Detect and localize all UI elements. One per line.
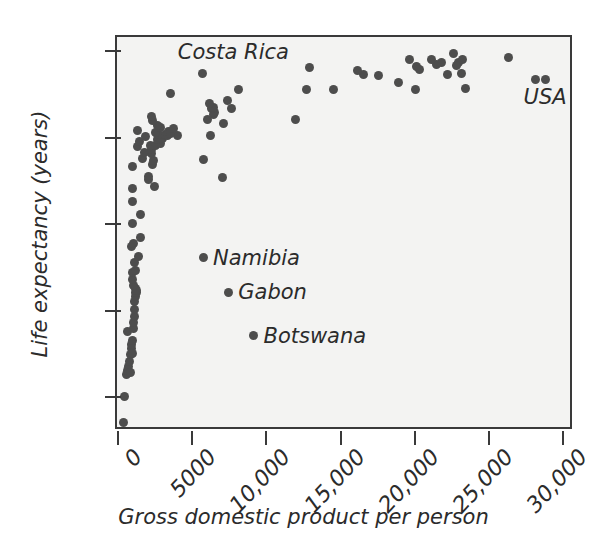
data-point bbox=[128, 219, 137, 228]
data-point bbox=[166, 89, 175, 98]
annotation-marker bbox=[224, 288, 233, 297]
data-point bbox=[227, 104, 236, 113]
data-point bbox=[136, 210, 145, 219]
x-axis-tick bbox=[265, 431, 267, 445]
data-point bbox=[449, 49, 458, 58]
y-axis-tick bbox=[105, 50, 121, 52]
data-point bbox=[126, 368, 135, 377]
plot-area: Costa RicaNamibiaGabonBotswanaUSA bbox=[115, 35, 572, 429]
data-point bbox=[234, 85, 243, 94]
data-point bbox=[437, 58, 446, 67]
data-point bbox=[443, 70, 452, 79]
data-point bbox=[541, 75, 550, 84]
data-point bbox=[136, 233, 145, 242]
data-point bbox=[415, 65, 424, 74]
annotation-marker bbox=[199, 253, 208, 262]
y-axis-title: Life expectancy (years) bbox=[28, 34, 52, 434]
x-axis-tick bbox=[191, 431, 193, 445]
x-axis-tick bbox=[414, 431, 416, 445]
data-point bbox=[133, 126, 142, 135]
data-point bbox=[461, 84, 470, 93]
data-point bbox=[128, 336, 137, 345]
y-axis-tick bbox=[105, 223, 121, 225]
annotation-label: Costa Rica bbox=[178, 40, 289, 64]
data-point bbox=[128, 162, 137, 171]
data-point bbox=[128, 184, 137, 193]
y-axis-tick bbox=[105, 137, 121, 139]
data-point bbox=[131, 266, 140, 275]
x-axis-tick bbox=[562, 431, 564, 445]
data-point bbox=[405, 55, 414, 64]
data-point bbox=[329, 85, 338, 94]
data-point bbox=[134, 252, 143, 261]
y-axis-tick bbox=[105, 310, 121, 312]
x-axis-tick-label: 0 bbox=[119, 444, 147, 471]
data-point bbox=[394, 78, 403, 87]
data-point bbox=[302, 85, 311, 94]
data-point bbox=[128, 349, 137, 358]
data-point bbox=[129, 239, 138, 248]
data-point bbox=[128, 197, 137, 206]
data-point bbox=[147, 112, 156, 121]
y-axis-tick bbox=[105, 396, 121, 398]
data-point bbox=[141, 132, 150, 141]
annotation-label: Botswana bbox=[264, 324, 367, 348]
data-point bbox=[223, 96, 232, 105]
x-axis-tick bbox=[340, 431, 342, 445]
data-point bbox=[458, 55, 467, 64]
data-point bbox=[531, 75, 540, 84]
data-point bbox=[374, 71, 383, 80]
data-point bbox=[150, 182, 159, 191]
data-point bbox=[198, 69, 207, 78]
data-point bbox=[199, 155, 208, 164]
data-point bbox=[504, 53, 513, 62]
data-point bbox=[218, 173, 227, 182]
scatter-plot-figure: Life expectancy (years) Gross domestic p… bbox=[0, 0, 607, 544]
data-points-layer bbox=[117, 37, 570, 427]
data-point bbox=[291, 115, 300, 124]
annotation-label: USA bbox=[524, 85, 567, 109]
data-point bbox=[411, 85, 420, 94]
data-point bbox=[119, 418, 128, 427]
data-point bbox=[305, 63, 314, 72]
annotation-label: Namibia bbox=[213, 246, 300, 270]
data-point bbox=[457, 69, 466, 78]
x-axis-tick bbox=[488, 431, 490, 445]
data-point bbox=[427, 55, 436, 64]
data-point bbox=[219, 119, 228, 128]
x-axis-tick-label: 5000 bbox=[165, 444, 221, 502]
annotation-label: Gabon bbox=[238, 280, 307, 304]
data-point bbox=[206, 131, 215, 140]
x-axis-title: Gross domestic product per person bbox=[0, 505, 607, 529]
x-axis-tick bbox=[117, 431, 119, 445]
